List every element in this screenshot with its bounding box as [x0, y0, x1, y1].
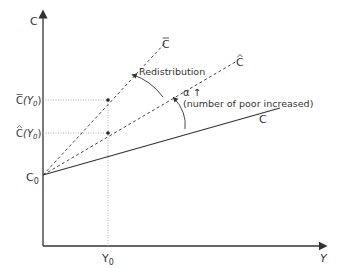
line-c [43, 108, 280, 175]
svg-text:C: C [162, 38, 170, 51]
diagram-canvas: C Y C C C C0 Y0 C(Y0) C(Y0) Redistributi… [0, 0, 343, 269]
label-c: C [259, 113, 267, 126]
svg-text:Y0: Y0 [101, 252, 114, 267]
label-c-hat: C [236, 55, 244, 70]
svg-text:C(Y0): C(Y0) [16, 95, 41, 108]
x-tick-label-y0: Y0 [101, 252, 114, 267]
svg-text:C(Y0): C(Y0) [16, 128, 41, 141]
point-c-bar-y0 [106, 98, 110, 102]
alpha-note: (number of poor increased) [183, 98, 313, 109]
y-axis-label: C [30, 15, 38, 28]
x-axis-label: Y [320, 252, 328, 265]
y-tick-label-c-bar: C(Y0) [16, 95, 41, 109]
intercept-label: C0 [26, 171, 39, 186]
alpha-label: α ↑ [183, 87, 201, 98]
line-c-bar [43, 43, 165, 175]
svg-text:C0: C0 [26, 171, 39, 186]
point-c-hat-y0 [106, 131, 110, 135]
label-c-bar: C [162, 38, 170, 51]
redistribution-label: Redistribution [139, 66, 205, 77]
redistribution-arrow [133, 75, 163, 97]
y-tick-label-c-hat: C(Y0) [16, 126, 41, 142]
svg-text:C: C [236, 56, 244, 69]
